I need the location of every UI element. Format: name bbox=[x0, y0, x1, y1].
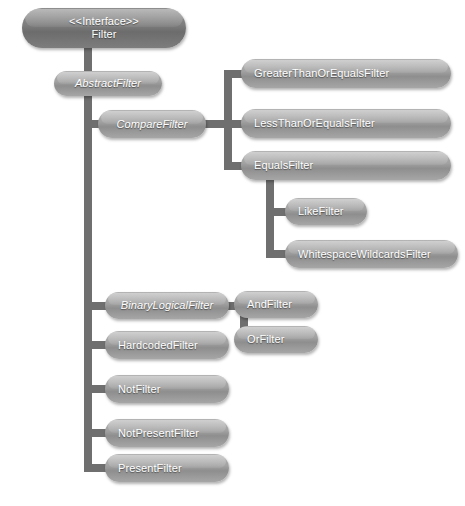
node-less-than-or-equals-filter[interactable]: LessThanOrEqualsFilter bbox=[241, 109, 451, 138]
node-label: LessThanOrEqualsFilter bbox=[254, 117, 375, 130]
connector-filter-to-abstractfilter bbox=[84, 46, 92, 74]
node-equals-filter[interactable]: EqualsFilter bbox=[241, 151, 451, 180]
node-label: <<Interface>>Filter bbox=[69, 15, 139, 40]
node-like-filter[interactable]: LikeFilter bbox=[285, 198, 367, 225]
node-and-filter[interactable]: AndFilter bbox=[234, 291, 318, 318]
node-label: PresentFilter bbox=[118, 462, 182, 475]
node-label: GreaterThanOrEqualsFilter bbox=[254, 67, 389, 80]
node-label: NotPresentFilter bbox=[118, 427, 199, 440]
node-not-filter[interactable]: NotFilter bbox=[105, 375, 229, 403]
node-label: CompareFilter bbox=[117, 118, 188, 131]
connector-main-spine bbox=[84, 94, 92, 472]
node-label: LikeFilter bbox=[298, 205, 344, 218]
node-whitespace-wildcards-filter[interactable]: WhitespaceWildcardsFilter bbox=[285, 240, 458, 268]
connector-equalsfilter-spine bbox=[266, 196, 274, 258]
node-label: EqualsFilter bbox=[254, 159, 313, 172]
node-label: WhitespaceWildcardsFilter bbox=[298, 248, 431, 261]
node-compare-filter[interactable]: CompareFilter bbox=[98, 110, 206, 138]
node-label: BinaryLogicalFilter bbox=[121, 299, 213, 312]
node-present-filter[interactable]: PresentFilter bbox=[105, 454, 229, 482]
node-hardcoded-filter[interactable]: HardcodedFilter bbox=[105, 331, 229, 359]
filter-name: Filter bbox=[91, 28, 116, 40]
node-or-filter[interactable]: OrFilter bbox=[234, 326, 318, 353]
node-label: HardcodedFilter bbox=[118, 339, 198, 352]
node-binary-logical-filter[interactable]: BinaryLogicalFilter bbox=[105, 292, 229, 319]
node-abstract-filter[interactable]: AbstractFilter bbox=[54, 71, 162, 96]
node-not-present-filter[interactable]: NotPresentFilter bbox=[105, 419, 229, 447]
node-greater-than-or-equals-filter[interactable]: GreaterThanOrEqualsFilter bbox=[241, 59, 451, 88]
node-label: OrFilter bbox=[247, 333, 284, 346]
node-label: AbstractFilter bbox=[75, 77, 141, 90]
node-label: NotFilter bbox=[118, 383, 160, 396]
class-hierarchy-diagram: <<Interface>>Filter AbstractFilter Compa… bbox=[0, 0, 465, 506]
filter-stereotype: <<Interface>> bbox=[69, 15, 139, 27]
node-filter-interface[interactable]: <<Interface>>Filter bbox=[22, 8, 186, 48]
node-label: AndFilter bbox=[247, 298, 292, 311]
